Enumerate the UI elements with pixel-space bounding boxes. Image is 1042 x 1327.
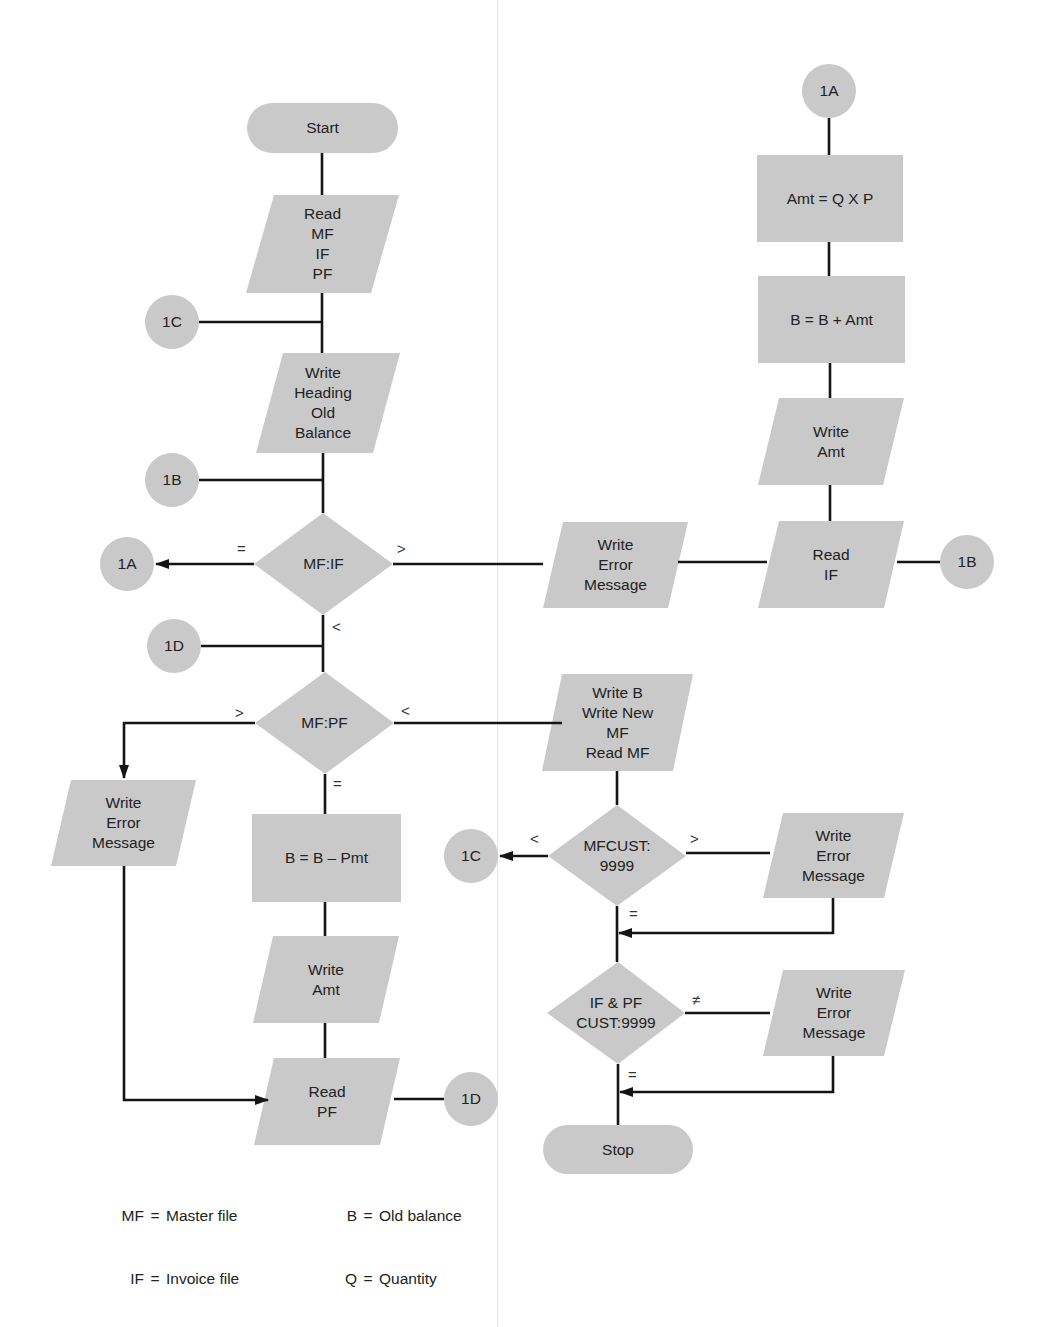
stop-terminal: Stop — [543, 1125, 693, 1174]
branch-label-equal: = — [237, 541, 246, 557]
node-text-line: Error — [816, 846, 850, 866]
start-terminal: Start — [247, 103, 398, 153]
node-text-line: Old — [311, 403, 335, 423]
node-text-line: Message — [802, 866, 865, 886]
flow-line — [124, 723, 255, 778]
node-text-line: Write — [106, 793, 142, 813]
node-text-line: Write — [308, 960, 344, 980]
read-pf-input: ReadPF — [264, 1058, 390, 1145]
write-error-mid-output: WriteErrorMessage — [553, 522, 678, 608]
connector-1b-right: 1B — [940, 535, 994, 589]
connector-1a-top: 1A — [802, 64, 856, 118]
node-text-line: Message — [584, 575, 647, 595]
node-text-line: IF & PF — [590, 993, 643, 1013]
node-text-line: IF — [824, 565, 838, 585]
write-heading-output: WriteHeadingOldBalance — [265, 353, 381, 453]
write-amt-right-output: WriteAmt — [768, 398, 894, 485]
legend-item: Q=Quantity — [312, 1268, 462, 1289]
b-minus-pmt-process: B = B – Pmt — [252, 814, 401, 902]
node-text-line: Write — [816, 826, 852, 846]
node-text-line: B = B – Pmt — [285, 848, 368, 868]
node-text-line: PF — [313, 264, 333, 284]
legend-item: MF=Master file — [60, 1205, 290, 1226]
node-text-line: Error — [106, 813, 140, 833]
node-text-line: Amt — [817, 442, 845, 462]
node-text-line: Error — [598, 555, 632, 575]
node-text-line: CUST:9999 — [576, 1013, 655, 1033]
node-text-line: 9999 — [600, 856, 634, 876]
branch-label-greater: > — [690, 831, 699, 847]
if-pf-cust-decision: IF & PFCUST:9999 — [547, 962, 685, 1064]
node-text-line: Write — [816, 983, 852, 1003]
node-text-line: Write — [813, 422, 849, 442]
node-text-line: Amt — [312, 980, 340, 1000]
connector-1a: 1A — [100, 537, 154, 591]
mfcust-decision: MFCUST:9999 — [548, 805, 686, 906]
legend-item: IF=Invoice file — [60, 1268, 290, 1289]
node-text-line: Balance — [295, 423, 351, 443]
amt-qxp-process: Amt = Q X P — [757, 155, 903, 242]
node-text-line: MF — [311, 224, 333, 244]
branch-label-less: < — [530, 831, 539, 847]
branch-label-equal: = — [333, 776, 342, 792]
branch-label-less: < — [401, 703, 410, 719]
node-text-line: MF — [606, 723, 628, 743]
node-text-line: Amt = Q X P — [787, 189, 874, 209]
connector-1c: 1C — [145, 295, 199, 349]
node-text-line: IF — [316, 244, 330, 264]
node-text-line: Message — [803, 1023, 866, 1043]
legend-key: IF — [60, 1268, 144, 1289]
node-text-line: Read — [812, 545, 849, 565]
legend-value: Master file — [166, 1205, 238, 1226]
branch-label-equal: = — [629, 906, 638, 922]
branch-label-greater: > — [397, 541, 406, 557]
node-text-line: Read — [304, 204, 341, 224]
node-text-line: Error — [817, 1003, 851, 1023]
legend-right: B=Old balance Q=Quantity P=Price Amt=Amo… — [312, 1163, 462, 1327]
mf-if-decision: MF:IF — [254, 513, 393, 615]
write-error-ifpf-output: WriteErrorMessage — [773, 970, 895, 1056]
b-plus-amt-process: B = B + Amt — [758, 276, 905, 363]
connector-1b: 1B — [145, 453, 199, 507]
legend-value: Quantity — [379, 1268, 437, 1289]
node-text-line: PF — [317, 1102, 337, 1122]
node-text-line: MF:PF — [301, 713, 348, 733]
read-if-input: ReadIF — [768, 521, 894, 608]
branch-label-not-equal: ≠ — [692, 992, 700, 1008]
node-text-line: Read MF — [586, 743, 650, 763]
legend-value: Old balance — [379, 1205, 462, 1226]
node-text-line: Stop — [602, 1140, 634, 1160]
node-text-line: MFCUST: — [583, 836, 650, 856]
node-text-line: Write New — [582, 703, 653, 723]
node-text-line: B = B + Amt — [790, 310, 873, 330]
legend-key: B — [312, 1205, 357, 1226]
node-text-line: Read — [308, 1082, 345, 1102]
write-error-left-output: WriteErrorMessage — [61, 780, 186, 866]
read-files-input: ReadMFIFPF — [256, 195, 389, 293]
branch-label-greater: > — [235, 705, 244, 721]
write-amt-left-output: WriteAmt — [263, 936, 389, 1023]
connector-1d: 1D — [147, 619, 201, 673]
write-b-new-mf-output: Write BWrite NewMFRead MF — [552, 674, 683, 771]
node-text-line: Start — [306, 118, 339, 138]
node-text-line: Message — [92, 833, 155, 853]
legend-key: MF — [60, 1205, 144, 1226]
branch-label-less: < — [332, 619, 341, 635]
flow-line — [124, 866, 268, 1100]
mf-pf-decision: MF:PF — [255, 672, 394, 774]
legend-key: Q — [312, 1268, 357, 1289]
node-text-line: Write — [305, 363, 341, 383]
write-error-mfcust-output: WriteErrorMessage — [773, 813, 894, 898]
legend-value: Invoice file — [166, 1268, 239, 1289]
legend-item: B=Old balance — [312, 1205, 462, 1226]
node-text-line: MF:IF — [303, 554, 343, 574]
node-text-line: Write — [598, 535, 634, 555]
node-text-line: Write B — [592, 683, 643, 703]
connector-1c-mid: 1C — [444, 829, 498, 883]
connector-1d-bottom: 1D — [444, 1072, 498, 1126]
node-text-line: Heading — [294, 383, 352, 403]
branch-label-equal: = — [628, 1067, 637, 1083]
legend-left: MF=Master file IF=Invoice file PF=Paymen… — [60, 1163, 290, 1327]
